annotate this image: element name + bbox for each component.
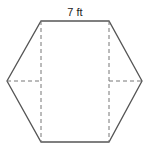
hexagon-outline [7,21,142,142]
hexagon-figure: 7 ft [0,0,146,151]
hexagon-diagram: 7 ft [0,0,146,151]
top-side-label: 7 ft [67,6,82,18]
